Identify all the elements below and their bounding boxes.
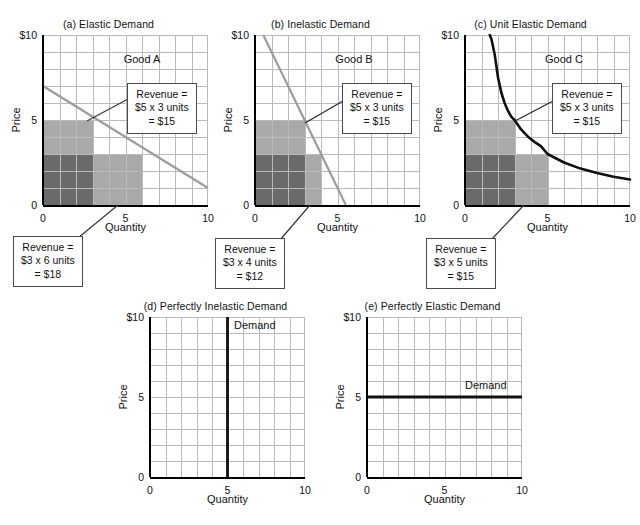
panel-c-callout-upper-line3: = $15 bbox=[560, 115, 614, 128]
panel-c-callout-upper-line2: $5 x 3 units bbox=[560, 101, 614, 114]
panel-a-callout-lower-line1: Revenue = bbox=[21, 241, 75, 254]
panel-e-gridlines bbox=[367, 317, 522, 477]
panel-b-callout-lower-line1: Revenue = bbox=[223, 243, 277, 256]
panel-b-callout-lower-line2: $3 x 4 units bbox=[223, 256, 277, 269]
panel-c-revenue-overlap bbox=[465, 154, 515, 205]
panel-d-ytick-0: 0 bbox=[138, 471, 144, 483]
panel-e-xtick-0: 0 bbox=[364, 484, 370, 496]
panel-e-plot-area: Demand bbox=[367, 317, 522, 477]
panel-b-xtick-10: 10 bbox=[414, 212, 426, 224]
panel-b-ytick-0: 0 bbox=[243, 199, 249, 211]
panel-e-ytick-10: $10 bbox=[343, 311, 361, 323]
panel-b-callout-upper-line3: = $15 bbox=[350, 115, 404, 128]
panel-c-y-axis bbox=[464, 35, 466, 205]
panel-c-callout-lower: Revenue = $3 x 5 units = $15 bbox=[426, 238, 496, 289]
panel-c-good-label: Good C bbox=[545, 53, 583, 65]
panel-a-ytick-5: 5 bbox=[31, 114, 37, 126]
panel-a-xtick-0: 0 bbox=[40, 212, 46, 224]
panel-b-x-axis bbox=[255, 205, 420, 207]
panel-d-xtick-10: 10 bbox=[299, 484, 311, 496]
panel-d-x-axis-label: Quantity bbox=[207, 493, 248, 505]
panel-b-callout-lower-line3: = $12 bbox=[223, 270, 277, 283]
panel-e-y-axis-label: Price bbox=[334, 384, 346, 409]
panel-c-callout-lower-line3: = $15 bbox=[434, 270, 488, 283]
panel-c-xtick-0: 0 bbox=[462, 212, 468, 224]
panel-e-y-axis bbox=[366, 317, 368, 477]
panel-b-x-axis-label: Quantity bbox=[317, 221, 358, 233]
panel-d-y-axis bbox=[149, 317, 151, 477]
panel-a-callout-upper-line2: $5 x 3 units bbox=[135, 101, 189, 114]
panel-b-callout-upper-line1: Revenue = bbox=[350, 88, 404, 101]
panel-a-callout-lower-line3: = $18 bbox=[21, 268, 75, 281]
panel-d-y-axis-label: Price bbox=[117, 384, 129, 409]
panel-a-good-label: Good A bbox=[124, 53, 161, 65]
panel-a-callout-upper: Revenue = $5 x 3 units = $15 bbox=[127, 83, 197, 134]
panel-c-x-axis bbox=[465, 205, 630, 207]
panel-b-xtick-0: 0 bbox=[252, 212, 258, 224]
panel-d-ytick-10: $10 bbox=[126, 311, 144, 323]
panel-d-demand-curve bbox=[150, 317, 305, 477]
panel-b-good-label: Good B bbox=[335, 53, 372, 65]
panel-d-gridlines bbox=[150, 317, 305, 477]
panel-c-x-axis-label: Quantity bbox=[527, 221, 568, 233]
panel-b-revenue-overlap bbox=[255, 154, 305, 205]
panel-e-ytick-5: 5 bbox=[355, 391, 361, 403]
panel-a-callout-upper-line1: Revenue = bbox=[135, 88, 189, 101]
panel-e-x-axis-label: Quantity bbox=[424, 493, 465, 505]
panel-a-y-axis bbox=[42, 35, 44, 205]
panel-c-y-axis-label: Price bbox=[432, 107, 444, 132]
elasticity-figure: (a) Elastic Demand bbox=[0, 0, 640, 525]
panel-a-xtick-10: 10 bbox=[202, 212, 214, 224]
panel-e-ytick-0: 0 bbox=[355, 471, 361, 483]
panel-c-xtick-10: 10 bbox=[624, 212, 636, 224]
panel-c-callout-lower-line2: $3 x 5 units bbox=[434, 256, 488, 269]
panel-e-perfectly-elastic-demand: (e) Perfectly Elastic Demand Demand bbox=[330, 300, 535, 515]
panel-b-ytick-10: $10 bbox=[231, 29, 249, 41]
panel-e-xtick-10: 10 bbox=[516, 484, 528, 496]
panel-b-callout-lower: Revenue = $3 x 4 units = $12 bbox=[215, 238, 285, 289]
panel-c-ytick-0: 0 bbox=[453, 199, 459, 211]
panel-b-ytick-5: 5 bbox=[243, 114, 249, 126]
panel-c-ytick-5: 5 bbox=[453, 114, 459, 126]
panel-e-x-axis bbox=[367, 477, 522, 479]
panel-a-callout-lower-line2: $3 x 6 units bbox=[21, 254, 75, 267]
panel-a-ytick-0: 0 bbox=[31, 199, 37, 211]
panel-c-ytick-10: $10 bbox=[441, 29, 459, 41]
panel-b-y-axis-label: Price bbox=[222, 107, 234, 132]
panel-c-callout-upper-line1: Revenue = bbox=[560, 88, 614, 101]
panel-c-callout-lower-line1: Revenue = bbox=[434, 243, 488, 256]
panel-a-callout-lower: Revenue = $3 x 6 units = $18 bbox=[13, 236, 83, 287]
panel-a-y-axis-label: Price bbox=[10, 107, 22, 132]
panel-b-callout-upper-line2: $5 x 3 units bbox=[350, 101, 404, 114]
panel-d-xtick-0: 0 bbox=[147, 484, 153, 496]
panel-b-callout-upper: Revenue = $5 x 3 units = $15 bbox=[342, 83, 412, 134]
panel-a-x-axis-label: Quantity bbox=[105, 221, 146, 233]
panel-d-perfectly-inelastic-demand: (d) Perfectly Inelastic Demand Demand bbox=[113, 300, 318, 515]
panel-e-demand-label: Demand bbox=[465, 379, 507, 391]
panel-a-ytick-10: $10 bbox=[19, 29, 37, 41]
panel-a-x-axis bbox=[43, 205, 208, 207]
panel-c-callout-upper: Revenue = $5 x 3 units = $15 bbox=[552, 83, 622, 134]
panel-d-plot-area: Demand bbox=[150, 317, 305, 477]
panel-a-callout-upper-line3: = $15 bbox=[135, 115, 189, 128]
panel-d-ytick-5: 5 bbox=[138, 391, 144, 403]
panel-b-y-axis bbox=[254, 35, 256, 205]
panel-d-demand-label: Demand bbox=[234, 319, 276, 331]
panel-e-demand-curve bbox=[367, 317, 522, 477]
panel-d-x-axis bbox=[150, 477, 305, 479]
panel-a-revenue-overlap bbox=[43, 154, 93, 205]
